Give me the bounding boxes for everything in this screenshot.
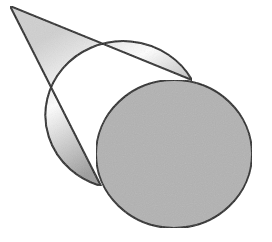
cone-base bbox=[96, 80, 252, 228]
cone-diagram bbox=[0, 0, 272, 242]
cone-figure bbox=[0, 0, 272, 242]
